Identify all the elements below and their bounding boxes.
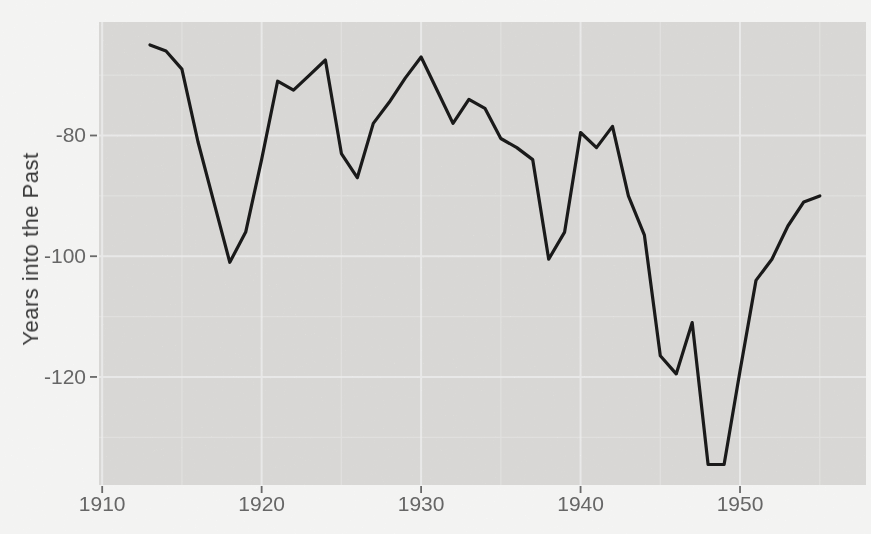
line-chart: 19101920193019401950-80-100-120 bbox=[0, 0, 871, 534]
y-axis-title: Years into the Past bbox=[18, 152, 44, 345]
panel-grain-overlay bbox=[99, 22, 866, 485]
chart-figure: 19101920193019401950-80-100-120 Years in… bbox=[0, 0, 871, 534]
